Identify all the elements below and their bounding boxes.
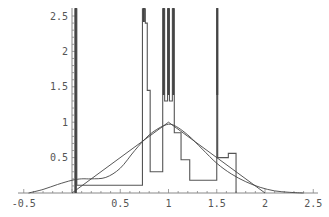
y-tick-label: 1.5	[50, 81, 68, 92]
x-tick-label: -0.5	[12, 198, 36, 209]
chart-plot: -0.50.511.522.50.511.522.5	[0, 0, 329, 217]
x-tick-label: 0.5	[111, 198, 129, 209]
histogram-steps-line	[75, 9, 236, 193]
y-tick-label: 2	[62, 46, 68, 57]
x-tick-label: 1.5	[208, 198, 226, 209]
y-tick-label: 2.5	[50, 11, 68, 22]
y-tick-label: 1	[62, 117, 68, 128]
x-tick-label: 1	[165, 198, 171, 209]
data-series	[29, 8, 304, 193]
x-tick-label: 2.5	[304, 198, 322, 209]
x-tick-label: 2	[262, 198, 268, 209]
kernel-density-line	[29, 124, 304, 193]
y-tick-label: 0.5	[50, 152, 68, 163]
